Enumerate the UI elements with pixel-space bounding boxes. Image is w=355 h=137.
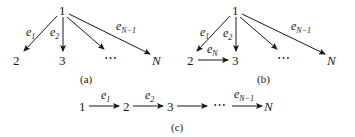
node-2: 2 [13,53,20,68]
edge-label-e1: e1 [200,25,209,41]
diagram-a: 1 e1 e2 eN−1 2 3 ⋯ N (a) [13,3,162,86]
node-3: 3 [232,53,239,68]
node-1: 1 [232,3,239,18]
node-N: N [151,53,162,68]
node-dots: ⋯ [104,50,117,65]
diagram-b: 1 e1 e2 eN−1 eN 2 3 ⋯ N (b) [187,3,337,86]
node-2: 2 [187,53,194,68]
node-3: 3 [167,99,174,114]
edge-label-e2: e2 [223,26,232,42]
edge-label-eN: eN [207,42,218,58]
node-1: 1 [79,99,86,114]
edge-label-e2: e2 [145,88,154,104]
node-dots: ⋯ [277,50,290,65]
edge-label-eN-1: eN−1 [234,87,254,103]
edge-label-e2: e2 [50,25,59,41]
node-1: 1 [59,3,66,18]
node-2: 2 [123,99,130,114]
edge-1-N [242,14,325,54]
edge-label-e1: e1 [26,25,35,41]
node-N: N [263,99,274,114]
edge-label-eN-1: eN−1 [116,19,136,35]
graph-topologies-figure: 1 e1 e2 eN−1 2 3 ⋯ N (a) 1 e1 e2 eN−1 eN… [0,0,355,137]
caption-a: (a) [80,73,93,86]
node-3: 3 [59,53,66,68]
caption-b: (b) [257,73,270,86]
edge-label-eN-1: eN−1 [291,19,311,35]
caption-c: (c) [171,121,184,134]
node-dots: ⋯ [213,97,226,112]
diagram-c: 1 2 3 ⋯ N e1 e2 eN−1 (c) [79,87,274,134]
node-N: N [326,53,337,68]
edge-1-N [69,14,150,54]
edge-label-e1: e1 [101,88,110,104]
